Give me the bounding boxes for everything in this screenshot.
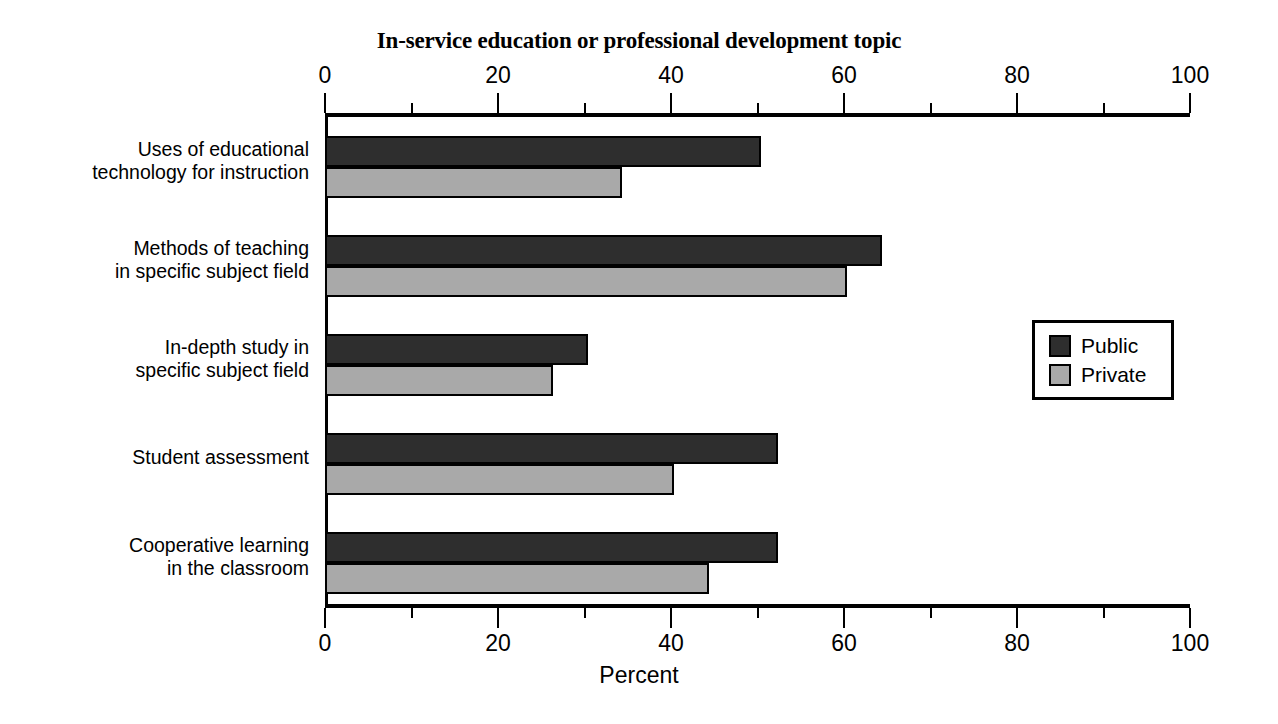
bar-public-0 xyxy=(325,136,761,167)
axis-tick-label-top-20: 20 xyxy=(453,62,543,89)
axis-tick-bot-40 xyxy=(670,608,672,628)
axis-tick-bot-0 xyxy=(324,608,326,628)
category-label-line: technology for instruction xyxy=(49,161,309,184)
axis-tick-label-bottom-80: 80 xyxy=(972,630,1062,657)
category-label-line: Methods of teaching xyxy=(49,237,309,260)
axis-tick-label-top-40: 40 xyxy=(626,62,716,89)
axis-tick-bot-100 xyxy=(1189,608,1191,628)
chart-title: In-service education or professional dev… xyxy=(0,28,1278,54)
category-label-0: Uses of educationaltechnology for instru… xyxy=(49,138,309,184)
axis-tick-top-10 xyxy=(411,103,413,113)
axis-tick-label-bottom-60: 60 xyxy=(799,630,889,657)
axis-tick-label-top-60: 60 xyxy=(799,62,889,89)
chart-legend: Public Private xyxy=(1032,320,1174,400)
category-label-3: Student assessment xyxy=(49,446,309,469)
axis-tick-top-20 xyxy=(497,93,499,113)
legend-label-public: Public xyxy=(1081,335,1138,356)
axis-tick-top-60 xyxy=(843,93,845,113)
bar-private-4 xyxy=(325,563,709,594)
legend-swatch-private-icon xyxy=(1049,364,1071,386)
axis-tick-bot-30 xyxy=(584,608,586,618)
chart-container: In-service education or professional dev… xyxy=(0,0,1278,724)
axis-tick-bot-10 xyxy=(411,608,413,618)
category-label-line: Student assessment xyxy=(49,446,309,469)
legend-label-private: Private xyxy=(1081,364,1146,385)
legend-item-public: Public xyxy=(1049,331,1171,360)
x-axis-label: Percent xyxy=(0,662,1278,689)
axis-tick-bot-60 xyxy=(843,608,845,628)
bar-public-2 xyxy=(325,334,588,365)
axis-tick-top-90 xyxy=(1103,103,1105,113)
axis-tick-bot-70 xyxy=(930,608,932,618)
axis-tick-label-bottom-100: 100 xyxy=(1145,630,1235,657)
axis-tick-top-40 xyxy=(670,93,672,113)
axis-tick-top-0 xyxy=(324,93,326,113)
bar-private-0 xyxy=(325,167,622,198)
axis-tick-top-80 xyxy=(1016,93,1018,113)
bar-public-1 xyxy=(325,235,882,266)
axis-tick-bot-80 xyxy=(1016,608,1018,628)
axis-tick-top-30 xyxy=(584,103,586,113)
legend-item-private: Private xyxy=(1049,360,1171,389)
axis-tick-top-70 xyxy=(930,103,932,113)
axis-tick-bot-20 xyxy=(497,608,499,628)
axis-tick-top-100 xyxy=(1189,93,1191,113)
axis-tick-label-bottom-0: 0 xyxy=(280,630,370,657)
axis-tick-top-50 xyxy=(757,103,759,113)
category-label-line: Cooperative learning xyxy=(49,534,309,557)
category-label-line: in the classroom xyxy=(49,557,309,580)
category-label-4: Cooperative learningin the classroom xyxy=(49,534,309,580)
category-label-2: In-depth study inspecific subject field xyxy=(49,336,309,382)
axis-tick-label-bottom-40: 40 xyxy=(626,630,716,657)
bar-private-1 xyxy=(325,266,847,297)
axis-tick-label-top-100: 100 xyxy=(1145,62,1235,89)
bar-public-4 xyxy=(325,532,778,563)
bar-private-2 xyxy=(325,365,553,396)
bar-public-3 xyxy=(325,433,778,464)
category-label-line: In-depth study in xyxy=(49,336,309,359)
bar-private-3 xyxy=(325,464,674,495)
axis-tick-label-top-0: 0 xyxy=(280,62,370,89)
legend-swatch-public-icon xyxy=(1049,335,1071,357)
category-label-line: in specific subject field xyxy=(49,260,309,283)
category-label-1: Methods of teachingin specific subject f… xyxy=(49,237,309,283)
axis-tick-bot-90 xyxy=(1103,608,1105,618)
axis-tick-label-bottom-20: 20 xyxy=(453,630,543,657)
category-label-line: specific subject field xyxy=(49,359,309,382)
axis-tick-bot-50 xyxy=(757,608,759,618)
axis-tick-label-top-80: 80 xyxy=(972,62,1062,89)
category-label-line: Uses of educational xyxy=(49,138,309,161)
